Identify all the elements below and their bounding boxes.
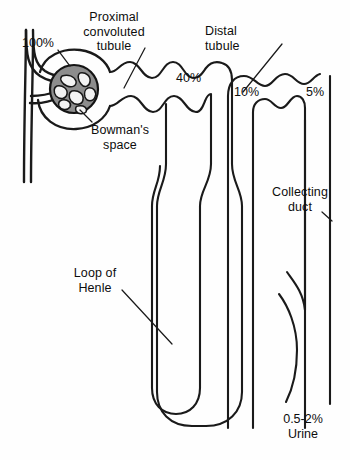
capillary-loop-5 [85, 88, 96, 101]
percent-proximal-tubule-end: 40% [176, 71, 201, 85]
percent-urine-output: 0.5-2% [272, 412, 334, 426]
pct-lower-wall [110, 94, 211, 112]
nephron-diagram: Proximal convoluted tubule Bowman's spac… [0, 0, 350, 460]
label-proximal-convoluted-tubule: Proximal convoluted tubule [68, 10, 160, 54]
proximal-convoluted-tubule-group [110, 62, 232, 112]
descending-limb-taper-left [157, 104, 166, 206]
percent-distal-tubule-start: 10% [234, 85, 259, 99]
distal-tubule-inner-wall [253, 96, 305, 428]
descending-limb-left-upper [152, 166, 160, 206]
henle-inner-wall [152, 104, 211, 414]
percent-collecting-duct-start: 5% [306, 85, 324, 99]
collecting-duct-flare-outer [279, 294, 297, 402]
arteriole-lower-outer [24, 30, 26, 182]
percent-glomerulus: 100% [22, 36, 54, 50]
capillary-loop-6 [59, 100, 71, 110]
label-bowmans-space: Bowman's space [80, 123, 160, 152]
capillary-loop-7 [76, 106, 87, 114]
label-urine: Urine [272, 427, 334, 441]
pct-upper-wall [110, 62, 232, 80]
nephron-illustration [0, 0, 350, 460]
label-distal-tubule: Distal tubule [205, 24, 285, 53]
capillary-loop-4 [69, 91, 83, 104]
glomerulus-group [50, 65, 98, 114]
label-loop-of-henle: Loop of Henle [62, 266, 128, 295]
capillary-loop-3 [54, 86, 67, 99]
label-collecting-duct: Collecting duct [262, 185, 338, 214]
leader-loop-of-henle [122, 290, 172, 344]
leader-proximal-tubule [124, 48, 145, 88]
arteriole-lower-inner [31, 40, 33, 182]
collecting-duct-flare-inner [287, 272, 305, 310]
